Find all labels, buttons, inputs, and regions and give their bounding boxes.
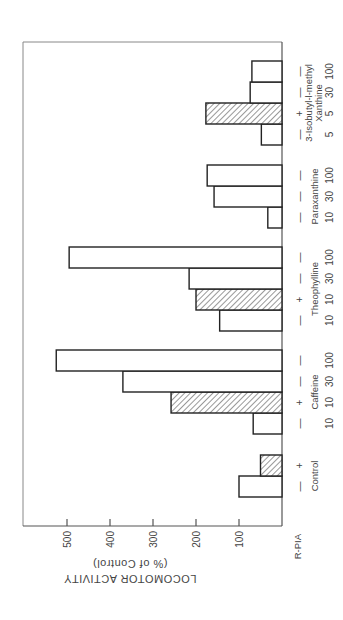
group-label: Paraxanthine <box>309 169 320 225</box>
group-label: Theophylline <box>309 262 320 316</box>
bar-chart: 100200300400500 —+Control—10+10—30—100Ca… <box>0 0 343 620</box>
bar-rpia-plus <box>196 289 282 310</box>
rpia-sign-label: — <box>294 274 305 284</box>
bar-rpia-minus <box>239 476 282 497</box>
y-tick-label: 200 <box>191 531 202 548</box>
dose-label: 100 <box>324 63 335 80</box>
bar-rpia-minus <box>250 82 282 103</box>
dose-label: 10 <box>324 397 335 409</box>
group-label: Caffeine <box>309 374 320 409</box>
bar-rpia-minus <box>220 310 282 331</box>
y-tick-label: 100 <box>234 531 245 548</box>
dose-label: 10 <box>324 418 335 430</box>
category-labels: —+Control—10+10—30—100Caffeine—10+10—30—… <box>294 63 335 492</box>
dose-label: 100 <box>324 352 335 369</box>
rpia-sign-label: — <box>294 253 305 263</box>
bar-rpia-minus <box>261 124 282 145</box>
row-header-rpia: R-PIA <box>292 533 303 559</box>
rpia-sign-label: — <box>294 192 305 202</box>
y-axis-title: LOCOMOTOR ACTIVITY <box>63 573 196 585</box>
bar-rpia-plus <box>261 455 283 476</box>
rpia-sign-label: + <box>294 462 305 468</box>
bar-rpia-plus <box>206 103 282 124</box>
value-axis-ticks: 100200300400500 <box>62 519 245 548</box>
bar-rpia-minus <box>189 268 282 289</box>
rpia-sign-label: — <box>294 419 305 429</box>
bar-rpia-minus <box>69 247 282 268</box>
dose-label: 10 <box>324 212 335 224</box>
bar-rpia-minus <box>268 207 282 228</box>
bar-rpia-minus <box>253 413 282 434</box>
bar-rpia-minus <box>56 350 282 371</box>
bar-rpia-minus <box>207 165 282 186</box>
dose-label: 5 <box>324 110 335 116</box>
dose-label: 30 <box>324 273 335 285</box>
rpia-sign-label: — <box>294 171 305 181</box>
dose-label: 10 <box>324 294 335 306</box>
rpia-sign-label: — <box>294 356 305 366</box>
group-label: Xanthine <box>313 84 324 122</box>
bar-rpia-minus <box>123 371 282 392</box>
rpia-sign-label: — <box>294 482 305 492</box>
bars <box>56 61 282 497</box>
dose-label: 30 <box>324 191 335 203</box>
dose-label: 30 <box>324 376 335 388</box>
bar-rpia-minus <box>252 61 282 82</box>
rpia-sign-label: + <box>294 399 305 405</box>
y-tick-label: 400 <box>105 531 116 548</box>
rpia-sign-label: — <box>294 213 305 223</box>
y-tick-label: 500 <box>62 531 73 548</box>
bar-rpia-plus <box>171 392 282 413</box>
dose-label: 100 <box>324 167 335 184</box>
dose-label: 30 <box>324 87 335 99</box>
y-tick-label: 300 <box>148 531 159 548</box>
rpia-sign-label: — <box>294 377 305 387</box>
bar-rpia-minus <box>214 186 282 207</box>
rpia-sign-label: + <box>294 296 305 302</box>
dose-label: 100 <box>324 249 335 266</box>
dose-label: 5 <box>324 131 335 137</box>
group-label: Control <box>309 461 320 492</box>
rpia-sign-label: — <box>294 316 305 326</box>
y-axis-subtitle: (% of Control) <box>93 558 168 570</box>
dose-label: 10 <box>324 315 335 327</box>
